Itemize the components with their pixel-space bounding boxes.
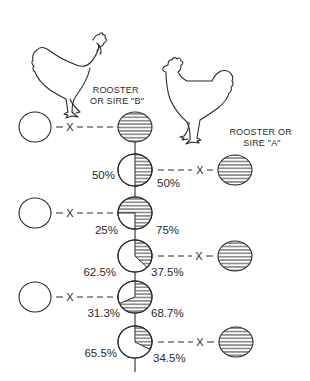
cross-symbol: X xyxy=(196,164,204,176)
sire-a-circle xyxy=(218,241,252,271)
crossbreeding-diagram: ROOSTER OR SIRE "B" ROOSTER OR SIRE "A" … xyxy=(0,0,310,381)
sire-a-circle xyxy=(218,155,252,185)
plain-pct: 31.3% xyxy=(87,307,120,319)
dam-circle xyxy=(19,112,51,142)
sire-b-purebred-circle xyxy=(118,112,152,142)
plain-pct: 65.5% xyxy=(84,347,117,359)
plain-pct: 25% xyxy=(95,224,118,236)
generation-row-1: X xyxy=(19,112,152,142)
sire-a-circle xyxy=(219,327,253,357)
sire-a-label: ROOSTER OR SIRE "A" xyxy=(229,127,294,148)
plain-pct: 62.5% xyxy=(83,266,116,278)
generation-row-4: 62.5% 37.5% X xyxy=(83,240,252,278)
cross-symbol: X xyxy=(195,250,203,262)
generation-row-5: X 31.3% 68.7% xyxy=(19,281,184,319)
dam-circle xyxy=(19,198,51,228)
sire-b-label: ROOSTER OR SIRE "B" xyxy=(90,85,144,106)
cross-symbol: X xyxy=(66,207,74,219)
hatched-pct: 37.5% xyxy=(151,266,184,278)
cross-symbol: X xyxy=(66,121,74,133)
hatched-pct: 50% xyxy=(157,177,180,189)
plain-pct: 50% xyxy=(92,169,115,181)
generation-row-2: 50% 50% X xyxy=(92,154,252,189)
dam-circle xyxy=(19,282,51,312)
rooster-a-icon xyxy=(163,58,233,144)
generation-row-6: 65.5% 34.5% X xyxy=(84,326,253,364)
hatched-pct: 75% xyxy=(156,224,179,236)
hatched-pct: 34.5% xyxy=(153,352,186,364)
hatched-portion xyxy=(135,154,152,186)
hatched-pct: 68.7% xyxy=(151,307,184,319)
cross-symbol: X xyxy=(66,291,74,303)
generation-row-3: X 25% 75% xyxy=(19,197,179,236)
cross-symbol: X xyxy=(196,336,204,348)
